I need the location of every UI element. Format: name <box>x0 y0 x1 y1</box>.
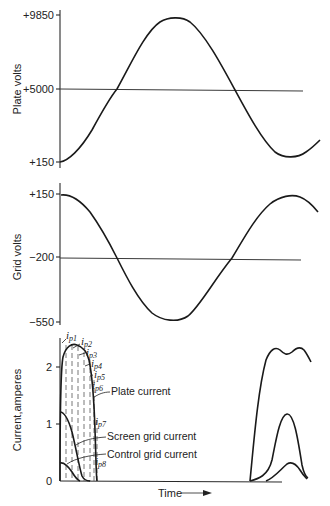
grid-dc-reference-line <box>60 258 301 260</box>
grid-y-axis-title: Grid volts <box>11 233 23 280</box>
tube-waveform-diagram: +9850 +5000 +150 Plate volts +150 −200 −… <box>0 0 330 506</box>
control-grid-current-pulse-1 <box>60 463 80 481</box>
grid-tick-label-bottom: −550 <box>29 316 54 328</box>
plate-volts-panel: +9850 +5000 +150 Plate volts <box>11 9 320 168</box>
current-tick-label-0: 0 <box>46 475 52 487</box>
plate-tick-label-top: +9850 <box>23 9 54 21</box>
label-ip7: ip7 <box>95 415 107 429</box>
grid-volts-panel: +150 −200 −550 Grid volts <box>11 183 318 328</box>
grid-tick-label-top: +150 <box>29 188 54 200</box>
current-tick-label-1: 1 <box>46 418 52 430</box>
current-y-axis-title: Current,amperes <box>11 368 23 451</box>
control-current-label: Control grid current <box>107 448 197 460</box>
control-grid-current-pulse-2 <box>266 463 307 481</box>
current-panel: 2 1 0 Current,amperes Time <box>11 329 311 499</box>
screen-current-label: Screen grid current <box>107 430 196 442</box>
grid-tick-label-mid: −200 <box>29 251 54 263</box>
plate-tick-label-bottom: +150 <box>29 156 54 168</box>
time-axis-label: Time <box>158 487 182 499</box>
label-ip8: ip8 <box>95 455 106 469</box>
plate-tick-label-mid: +5000 <box>23 83 54 95</box>
ip5-leader <box>90 375 93 376</box>
screen-current-leader <box>76 437 106 445</box>
time-arrow-icon <box>203 490 212 496</box>
current-tick-label-2: 2 <box>46 361 52 373</box>
grid-voltage-curve <box>61 195 318 320</box>
plate-y-axis-title: Plate volts <box>11 63 23 114</box>
plate-dc-reference-line <box>60 89 303 91</box>
label-ip1: ip1 <box>66 329 77 343</box>
plate-current-label: Plate current <box>111 385 171 397</box>
screen-grid-current-pulse-1 <box>60 412 90 481</box>
time-axis <box>60 481 282 482</box>
